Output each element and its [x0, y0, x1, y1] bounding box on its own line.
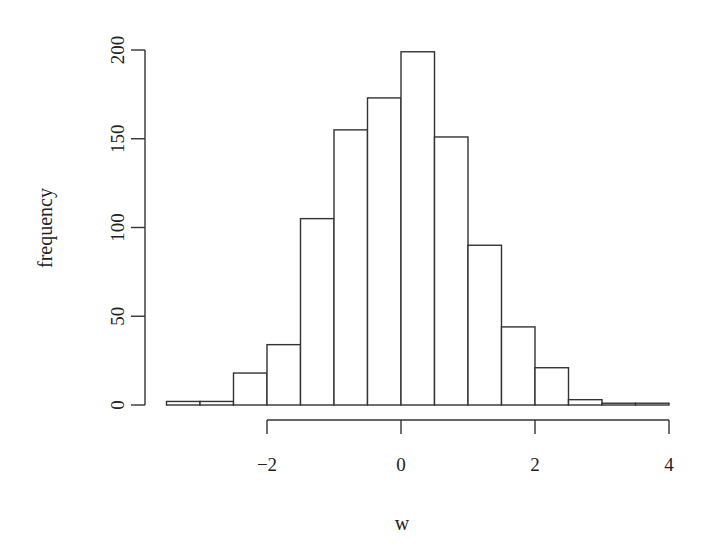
y-tick-label: 50: [107, 307, 128, 326]
y-tick-label: 100: [107, 213, 128, 242]
x-tick-label: −2: [257, 454, 277, 475]
histogram-bar: [468, 245, 502, 405]
x-axis-label: w: [395, 512, 410, 534]
histogram-bar: [301, 219, 335, 405]
x-axis: −2024: [257, 420, 674, 475]
x-tick-label: 0: [396, 454, 406, 475]
histogram-bar: [200, 401, 234, 405]
histogram-bar: [167, 401, 201, 405]
y-axis: 050100150200: [107, 36, 145, 410]
histogram-chart: 050100150200 −2024 w frequency: [0, 0, 707, 558]
histogram-bar: [334, 130, 368, 405]
y-tick-label: 150: [107, 125, 128, 154]
histogram-bar: [636, 403, 670, 405]
y-axis-label: frequency: [34, 188, 57, 268]
y-tick-label: 0: [107, 400, 128, 410]
histogram-bar: [602, 403, 636, 405]
x-tick-label: 2: [530, 454, 540, 475]
histogram-bars: [167, 52, 670, 405]
histogram-bar: [234, 373, 268, 405]
histogram-bar: [569, 400, 603, 405]
y-tick-label: 200: [107, 36, 128, 65]
histogram-bar: [401, 52, 435, 405]
histogram-bar: [368, 98, 402, 405]
histogram-bar: [502, 327, 536, 405]
histogram-bar: [267, 345, 301, 405]
histogram-bar: [535, 368, 569, 405]
histogram-bar: [435, 137, 469, 405]
x-tick-label: 4: [664, 454, 674, 475]
